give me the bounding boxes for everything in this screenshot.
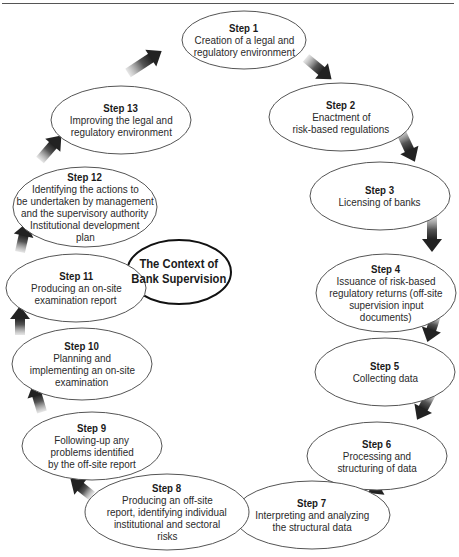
step-8-desc-line: Producing an off-site: [122, 494, 213, 506]
step-4-desc-line: Issuance of risk-based: [336, 275, 435, 287]
step-4-desc-line: supervision input: [349, 299, 423, 311]
step-7-desc-line: Interpreting and analyzing: [255, 509, 369, 521]
step-10-desc-line: examination: [55, 376, 108, 388]
step-12-title: Step 12: [68, 171, 102, 183]
step-9-node: Step 9Following-up anyproblems identifie…: [22, 412, 162, 480]
step-6-desc-line: Processing and: [343, 450, 411, 462]
step-12-desc-line: plan: [76, 231, 95, 243]
step-7-desc-line: the structural data: [272, 521, 351, 533]
step-5-desc-line: Collecting data: [352, 372, 418, 384]
step-9-desc-line: by the off-site report: [48, 458, 136, 470]
step-10-desc-line: implementing an on-site: [29, 364, 134, 376]
step-2-desc-line: Enactment of: [312, 111, 370, 123]
step-1-title: Step 1: [229, 22, 258, 34]
step-9-desc-line: Following-up any: [55, 434, 130, 446]
step-12-desc-line: and the supervisory authority: [21, 207, 148, 219]
step-3-node: Step 3Licensing of banks: [310, 162, 450, 230]
step-4-desc-line: regulatory returns (off-site: [329, 287, 442, 299]
step-5-node: Step 5Collecting data: [315, 338, 455, 406]
step-12-desc-line: Identifying the actions to: [32, 183, 139, 195]
step-6-title: Step 6: [362, 438, 391, 450]
step-1-node: Step 1Creation of a legal andregulatory …: [182, 11, 306, 69]
step-4-title: Step 4: [371, 263, 400, 275]
step-12-desc-line: be undertaken by management: [16, 195, 153, 207]
step-9-title: Step 9: [77, 422, 106, 434]
step-11-title: Step 11: [59, 270, 93, 282]
step-5-title: Step 5: [370, 360, 399, 372]
step-8-node: Step 8Producing an off-sitereport, ident…: [85, 474, 249, 550]
step-6-desc-line: structuring of data: [337, 462, 416, 474]
step-11-desc-line: examination report: [35, 294, 117, 306]
step-11-node: Step 11Producing an on-siteexamination r…: [6, 254, 146, 322]
step-4-node: Step 4Issuance of risk-basedregulatory r…: [316, 254, 456, 332]
step-8-desc-line: risks: [157, 530, 177, 542]
step-12-node: Step 12Identifying the actions tobe unde…: [13, 167, 157, 247]
step-13-title: Step 13: [104, 102, 138, 114]
step-10-node: Step 10Planning andimplementing an on-si…: [12, 328, 152, 400]
step-1-desc-line: Creation of a legal and: [194, 34, 294, 46]
step-2-node: Step 2Enactment ofrisk-based regulations: [269, 83, 413, 151]
step-11-desc-line: Producing an on-site: [31, 282, 122, 294]
step-8-title: Step 8: [152, 482, 181, 494]
arrow-step-0: [123, 43, 168, 82]
step-4-desc-line: documents): [360, 311, 412, 323]
center-title-line1: The Context of: [140, 257, 219, 272]
step-2-title: Step 2: [326, 99, 355, 111]
step-10-title: Step 10: [65, 340, 99, 352]
step-8-desc-line: report, identifying individual: [107, 506, 227, 518]
step-13-desc-line: regulatory environment: [70, 126, 171, 138]
step-13-node: Step 13Improving the legal andregulatory…: [51, 86, 191, 154]
step-12-desc-line: Institutional development: [30, 219, 140, 231]
step-7-node: Step 7Interpreting and analyzingthe stru…: [234, 481, 390, 549]
step-13-desc-line: Improving the legal and: [70, 114, 173, 126]
step-10-desc-line: Planning and: [53, 352, 111, 364]
step-8-desc-line: institutional and sectoral: [114, 518, 220, 530]
step-7-title: Step 7: [297, 497, 326, 509]
step-6-node: Step 6Processing andstructuring of data: [307, 422, 447, 490]
step-1-desc-line: regulatory environment: [193, 46, 294, 58]
step-2-desc-line: risk-based regulations: [293, 123, 390, 135]
step-3-desc-line: Licensing of banks: [339, 196, 421, 208]
step-3-title: Step 3: [365, 184, 394, 196]
step-9-desc-line: problems identified: [50, 446, 133, 458]
